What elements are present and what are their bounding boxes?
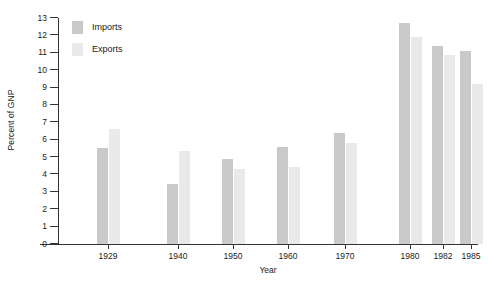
bar-imports-1970 — [334, 133, 345, 244]
legend-swatch-imports — [72, 21, 83, 34]
y-tick: 9 — [50, 87, 58, 88]
x-tick — [410, 244, 411, 249]
bar-imports-1940 — [167, 184, 178, 244]
y-tick-label: 11 — [38, 48, 47, 57]
y-axis-label-text: Percent of GNP — [6, 90, 16, 151]
y-axis-spine — [58, 18, 59, 244]
bar-imports-1985 — [460, 51, 471, 244]
bar-exports-1985 — [472, 84, 483, 244]
x-tick — [288, 244, 289, 249]
x-tick — [108, 244, 109, 249]
bar-imports-1982 — [432, 46, 443, 244]
x-tick-label: 1960 — [279, 252, 298, 261]
x-tick — [233, 244, 234, 249]
x-tick-label: 1950 — [224, 252, 243, 261]
bar-exports-1960 — [289, 167, 300, 244]
y-tick-label: 9 — [42, 83, 47, 92]
x-tick-label: 1940 — [169, 252, 188, 261]
bar-exports-1970 — [346, 143, 357, 244]
y-tick: 1 — [50, 226, 58, 227]
bar-exports-1940 — [179, 151, 190, 244]
y-tick-label: 1 — [42, 222, 47, 231]
y-tick-label: 2 — [42, 204, 47, 213]
chart-legend: Imports Exports — [72, 18, 192, 62]
y-tick: 6 — [50, 139, 58, 140]
y-tick: 10 — [50, 69, 58, 70]
x-tick — [471, 244, 472, 249]
x-tick-label: 1980 — [401, 252, 420, 261]
x-tick-label: 1985 — [462, 252, 481, 261]
x-axis-label: Year — [58, 265, 478, 275]
x-tick — [345, 244, 346, 249]
y-tick-label: 6 — [42, 135, 47, 144]
bar-exports-1980 — [411, 37, 422, 244]
x-tick — [443, 244, 444, 249]
y-axis-label: Percent of GNP — [2, 0, 20, 240]
x-tick — [178, 244, 179, 249]
legend-label-exports: Exports — [92, 44, 123, 54]
bar-imports-1929 — [97, 148, 108, 244]
x-tick-label: 1929 — [99, 252, 118, 261]
y-tick-label: 13 — [38, 13, 47, 22]
y-tick: 2 — [50, 208, 58, 209]
bar-exports-1950 — [234, 169, 245, 244]
y-tick: 11 — [50, 52, 58, 53]
x-tick-label: 1982 — [434, 252, 453, 261]
y-tick: 7 — [50, 121, 58, 122]
x-axis-spine — [40, 244, 478, 245]
bar-imports-1950 — [222, 159, 233, 244]
legend-swatch-exports — [72, 43, 83, 56]
bar-chart: Percent of GNP 012345678910111213 192919… — [0, 0, 488, 293]
y-tick-label: 7 — [42, 118, 47, 127]
y-tick: 3 — [50, 191, 58, 192]
x-tick-label: 1970 — [336, 252, 355, 261]
y-tick: 13 — [50, 17, 58, 18]
y-tick-label: 12 — [38, 31, 47, 40]
y-tick-label: 3 — [42, 187, 47, 196]
y-tick: 8 — [50, 104, 58, 105]
y-tick: 12 — [50, 34, 58, 35]
bar-exports-1929 — [109, 129, 120, 244]
legend-item-imports: Imports — [72, 18, 192, 36]
y-tick: 0 — [50, 243, 58, 244]
legend-label-imports: Imports — [92, 22, 122, 32]
y-tick-label: 0 — [42, 239, 47, 248]
y-tick-label: 4 — [42, 170, 47, 179]
y-tick-label: 5 — [42, 152, 47, 161]
bar-exports-1982 — [444, 55, 455, 244]
y-tick: 4 — [50, 173, 58, 174]
legend-item-exports: Exports — [72, 40, 192, 58]
y-tick-label: 8 — [42, 100, 47, 109]
y-tick: 5 — [50, 156, 58, 157]
bar-imports-1960 — [277, 147, 288, 244]
bar-imports-1980 — [399, 23, 410, 244]
y-tick-label: 10 — [38, 65, 47, 74]
